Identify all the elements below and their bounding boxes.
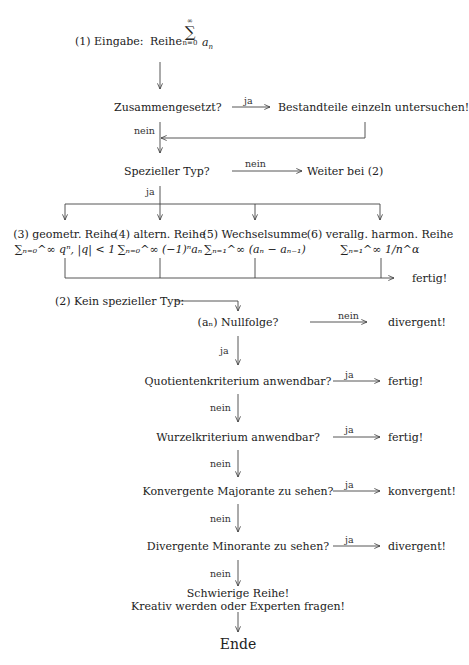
start-word: Reihe: [150, 36, 182, 47]
label-ja: ja: [220, 346, 229, 356]
final-difficult: Schwierige Reihe!: [187, 588, 289, 599]
question-minorante: Divergente Minorante zu sehen?: [147, 541, 329, 552]
question-majorante: Konvergente Majorante zu sehen?: [143, 486, 334, 497]
label-nein: nein: [210, 459, 231, 469]
label-ja: ja: [345, 480, 354, 490]
label-ja: ja: [345, 425, 354, 435]
question-wurzelkriterium: Wurzelkriterium anwendbar?: [156, 432, 320, 443]
type-geometric-formula: ∑ₙ₌₀^∞ qⁿ, |q| < 1: [15, 244, 116, 255]
type-alternating-title: (4) altern. Reihe: [114, 229, 205, 240]
label-ja: ja: [146, 187, 155, 197]
type-harmonic-formula: ∑ₙ₌₁^∞ 1/n^α: [341, 244, 420, 255]
part2-heading: (2) Kein spezieller Typ:: [55, 296, 184, 307]
sum-term: an: [202, 37, 213, 51]
result-fertig: fertig!: [412, 273, 447, 284]
label-nein: nein: [210, 569, 231, 579]
end-node: Ende: [220, 637, 256, 651]
result-fertig: fertig!: [388, 376, 423, 387]
question-nullfolge: (aₙ) Nullfolge?: [198, 317, 279, 328]
label-nein: nein: [338, 311, 359, 321]
question-quotientenkriterium: Quotientenkriterium anwendbar?: [145, 376, 332, 387]
result-konvergent: konvergent!: [388, 486, 456, 497]
label-ja: ja: [345, 370, 354, 380]
final-ask-experts: Kreativ werden oder Experten fragen!: [131, 601, 345, 612]
question-spezieller-typ: Spezieller Typ?: [124, 166, 210, 177]
result-divergent: divergent!: [388, 317, 446, 328]
sum-lower: n=0: [180, 40, 200, 47]
label-nein: nein: [245, 159, 266, 169]
sum-symbol: ∞ ∑ n=0: [180, 18, 200, 47]
sum-sigma: ∑: [180, 25, 200, 40]
type-alternating-formula: ∑ₙ₌₀^∞ (−1)ⁿaₙ: [118, 244, 203, 255]
result-weiter-bei-2: Weiter bei (2): [307, 166, 383, 177]
result-divergent: divergent!: [388, 541, 446, 552]
label-nein: nein: [210, 514, 231, 524]
result-bestandteile: Bestandteile einzeln untersuchen!: [278, 102, 469, 113]
type-telescoping-title: (5) Wechselsumme: [202, 229, 307, 240]
type-geometric-title: (3) geometr. Reihe: [13, 229, 117, 240]
question-zusammengesetzt: Zusammengesetzt?: [114, 102, 222, 113]
label-nein: nein: [210, 403, 231, 413]
start-label: (1) Eingabe:: [75, 36, 144, 47]
type-telescoping-formula: ∑ₙ₌₁^∞ (aₙ − aₙ₋₁): [204, 244, 305, 255]
label-ja: ja: [244, 96, 253, 106]
result-fertig: fertig!: [388, 432, 423, 443]
type-harmonic-title: (6) verallg. harmon. Reihe: [307, 229, 454, 240]
label-ja: ja: [345, 535, 354, 545]
label-nein: nein: [134, 126, 155, 136]
